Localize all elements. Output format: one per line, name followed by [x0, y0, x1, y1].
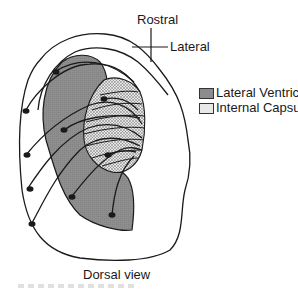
legend-label: Internal Capsule: [216, 101, 298, 115]
lateral-label: Lateral: [170, 40, 210, 54]
neuron-soma: [105, 152, 112, 158]
neuron-soma: [29, 221, 36, 227]
internal-capsule-swatch: [199, 103, 214, 114]
lateral-ventricle-swatch: [199, 88, 214, 99]
neuron-soma: [53, 69, 60, 75]
legend-item-lateral-ventricle: Lateral Ventricle: [199, 86, 298, 100]
neuron-soma: [61, 127, 68, 133]
view-label: Dorsal view: [83, 268, 150, 282]
legend-label: Lateral Ventricle: [216, 86, 298, 100]
neuron-soma: [109, 212, 116, 218]
neuron-soma: [24, 152, 31, 158]
cropped-caption: [18, 284, 138, 288]
rostral-label: Rostral: [137, 13, 178, 27]
neuron-soma: [23, 108, 30, 114]
brain-diagram: [0, 0, 298, 291]
legend-item-internal-capsule: Internal Capsule: [199, 101, 298, 115]
neuron-soma: [27, 186, 34, 192]
neuron-soma: [101, 96, 108, 102]
neuron-soma: [69, 194, 76, 200]
